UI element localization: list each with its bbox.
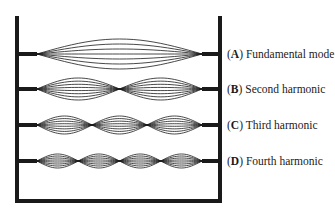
mode-label-a: (A) Fundamental mode: [227, 48, 334, 60]
mode-letter: C: [231, 119, 239, 131]
string-mode-a: [17, 39, 220, 69]
mode-label-b: (B) Second harmonic: [227, 83, 325, 95]
mode-name: Second harmonic: [245, 83, 325, 95]
string-curve: [37, 124, 202, 125]
vibrating-strings: [17, 39, 220, 168]
mode-letter: B: [231, 83, 239, 95]
mode-name: Fundamental mode: [246, 48, 334, 60]
string-mode-b: [17, 78, 220, 100]
string-curve: [37, 125, 202, 129]
string-mode-c: [17, 116, 220, 134]
string-curve: [37, 125, 202, 126]
mode-label-d: (D) Fourth harmonic: [227, 155, 323, 167]
mode-name: Fourth harmonic: [246, 155, 323, 167]
mode-letter: D: [231, 155, 239, 167]
mode-label-c: (C) Third harmonic: [227, 119, 318, 131]
string-curve: [37, 84, 202, 89]
string-curve: [37, 89, 202, 94]
string-mode-d: [17, 154, 220, 168]
mode-name: Third harmonic: [246, 119, 318, 131]
standing-waves-diagram: [0, 0, 335, 214]
string-curve: [37, 121, 202, 125]
mode-letter: A: [231, 48, 239, 60]
